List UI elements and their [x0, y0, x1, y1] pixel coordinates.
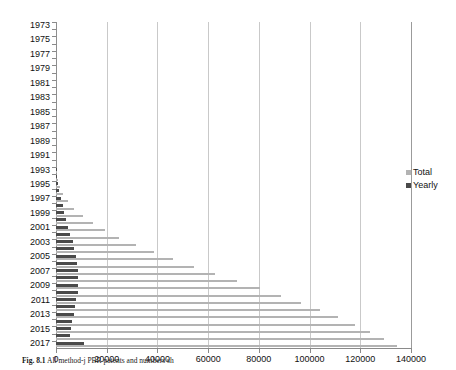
- y-tick-label-1993: 1993: [8, 166, 50, 175]
- bar-yearly-1994: [56, 175, 57, 178]
- bar-total-1996: [56, 193, 63, 195]
- legend-item-total[interactable]: Total: [406, 166, 438, 179]
- bar-yearly-2011: [56, 298, 76, 301]
- bar-total-2001: [56, 229, 105, 231]
- bar-yearly-2000: [56, 218, 66, 221]
- bar-yearly-2014: [56, 320, 72, 323]
- y-tick-label-2009: 2009: [8, 281, 50, 290]
- bar-total-2005: [56, 258, 173, 260]
- y-tick-1982: [52, 87, 56, 88]
- x-axis-line: [56, 348, 412, 349]
- bar-total-2014: [56, 324, 355, 326]
- bar-yearly-1998: [56, 204, 63, 207]
- y-tick-label-1995: 1995: [8, 180, 50, 189]
- gridline-100000: [310, 22, 311, 348]
- x-tick-20000: [107, 349, 108, 353]
- x-tick-60000: [208, 349, 209, 353]
- bar-total-1993: [56, 171, 57, 173]
- bar-total-2012: [56, 309, 320, 311]
- bar-total-2008: [56, 280, 237, 282]
- bar-total-1998: [56, 208, 74, 210]
- y-tick-1980: [52, 73, 56, 74]
- y-tick-label-1999: 1999: [8, 209, 50, 218]
- y-tick-label-1975: 1975: [8, 35, 50, 44]
- bar-total-1995: [56, 186, 60, 188]
- y-tick-1975: [52, 36, 56, 37]
- figure-caption: Fig. 8.1 All method-j PBR patents and nu…: [22, 356, 442, 366]
- y-tick-1981: [52, 80, 56, 81]
- bar-yearly-2015: [56, 327, 71, 330]
- bar-yearly-2007: [56, 269, 78, 272]
- bar-yearly-1997: [56, 197, 61, 200]
- y-tick-label-1973: 1973: [8, 21, 50, 30]
- y-tick-1976: [52, 44, 56, 45]
- y-tick-label-1985: 1985: [8, 108, 50, 117]
- plot-area: [56, 22, 411, 348]
- bar-yearly-2008: [56, 276, 78, 279]
- y-tick-label-1981: 1981: [8, 79, 50, 88]
- chart-legend: TotalYearly: [406, 166, 438, 192]
- y-tick-1973: [52, 22, 56, 23]
- y-tick-1978: [52, 58, 56, 59]
- y-tick-label-2013: 2013: [8, 310, 50, 319]
- y-tick-1988: [52, 131, 56, 132]
- y-tick-label-2007: 2007: [8, 267, 50, 276]
- bar-total-2006: [56, 266, 194, 268]
- y-tick-1984: [52, 102, 56, 103]
- gridline-40000: [157, 22, 158, 348]
- bar-total-2003: [56, 244, 136, 246]
- bar-yearly-1995: [56, 182, 58, 185]
- x-tick-40000: [157, 349, 158, 353]
- figure-container: 1973197519771979198119831985198719891991…: [0, 0, 456, 370]
- bar-yearly-2006: [56, 262, 77, 265]
- bar-total-2009: [56, 287, 260, 289]
- legend-swatch-yearly-icon: [406, 183, 411, 188]
- y-tick-1989: [52, 138, 56, 139]
- x-tick-80000: [259, 349, 260, 353]
- bar-yearly-1996: [56, 189, 59, 192]
- bar-total-1994: [56, 179, 58, 181]
- y-tick-label-1983: 1983: [8, 93, 50, 102]
- x-tick-0: [56, 349, 57, 353]
- bar-total-1997: [56, 200, 68, 202]
- bar-total-2013: [56, 316, 338, 318]
- y-tick-label-2011: 2011: [8, 296, 50, 305]
- gridline-80000: [259, 22, 260, 348]
- legend-item-yearly[interactable]: Yearly: [406, 179, 438, 192]
- gridline-120000: [360, 22, 361, 348]
- legend-swatch-total-icon: [406, 170, 411, 175]
- bar-total-2002: [56, 237, 119, 239]
- chart-plot-region: 1973197519771979198119831985198719891991…: [0, 8, 456, 346]
- bar-total-2016: [56, 338, 384, 340]
- bar-yearly-1999: [56, 211, 64, 214]
- bar-yearly-2004: [56, 247, 74, 250]
- y-tick-label-1979: 1979: [8, 64, 50, 73]
- bar-yearly-2012: [56, 305, 75, 308]
- y-tick-1974: [52, 29, 56, 30]
- legend-label-total: Total: [413, 166, 432, 179]
- y-tick-1991: [52, 152, 56, 153]
- x-tick-120000: [360, 349, 361, 353]
- y-tick-label-2015: 2015: [8, 325, 50, 334]
- bar-yearly-2001: [56, 226, 68, 229]
- y-tick-label-1987: 1987: [8, 122, 50, 131]
- bar-yearly-2009: [56, 284, 78, 287]
- bar-total-2011: [56, 302, 301, 304]
- bar-yearly-2003: [56, 240, 73, 243]
- y-tick-1983: [52, 94, 56, 95]
- y-tick-1987: [52, 123, 56, 124]
- bar-total-2015: [56, 331, 370, 333]
- figure-caption-text: All method-j PBR patents and numbers sh: [47, 356, 174, 365]
- y-tick-label-2003: 2003: [8, 238, 50, 247]
- y-tick-1992: [52, 160, 56, 161]
- bar-total-1999: [56, 215, 83, 217]
- y-tick-1979: [52, 65, 56, 66]
- y-tick-label-1991: 1991: [8, 151, 50, 160]
- bar-yearly-2017: [56, 342, 84, 345]
- bar-yearly-2013: [56, 313, 74, 316]
- figure-number: Fig. 8.1: [22, 356, 46, 365]
- y-tick-1990: [52, 145, 56, 146]
- y-tick-label-1997: 1997: [8, 194, 50, 203]
- bar-yearly-2010: [56, 291, 78, 294]
- bar-yearly-1993: [56, 168, 57, 171]
